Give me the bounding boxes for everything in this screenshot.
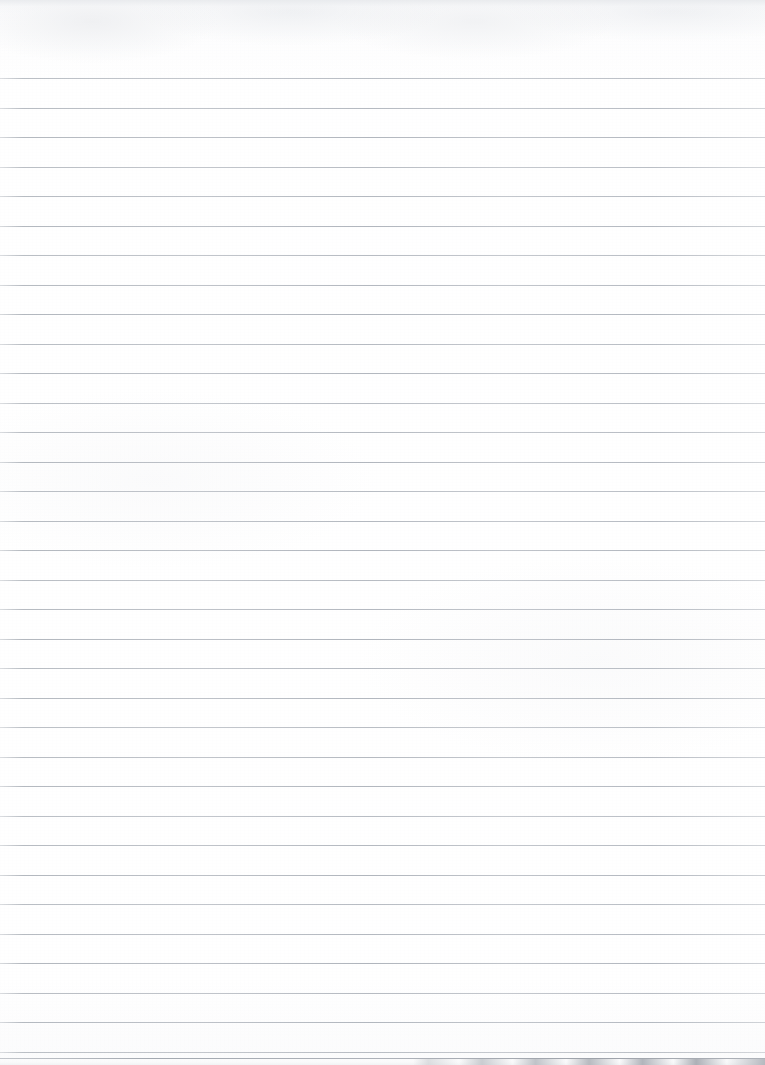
scanned-page bbox=[0, 0, 765, 1065]
bottom-edge-rule-line bbox=[0, 1058, 765, 1059]
scan-edge-segments bbox=[0, 1059, 765, 1065]
bottom-scan-edge-artifact bbox=[0, 1058, 765, 1065]
paper-background bbox=[0, 0, 765, 1065]
